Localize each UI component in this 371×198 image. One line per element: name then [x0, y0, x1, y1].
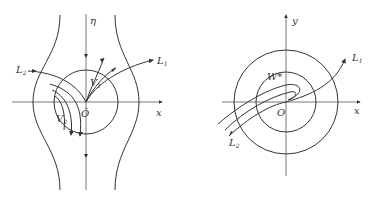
L1-label: L1	[156, 55, 167, 67]
arrow-down-icon	[84, 54, 88, 58]
origin-label: Õ	[81, 108, 89, 119]
origin-label: O	[277, 107, 285, 118]
y-axis-label: y	[291, 15, 298, 26]
diagram-canvas: η x Õ L2 L1 V1 V2 y x O W* L1 L2	[0, 0, 371, 198]
L2-plus-label: L2	[228, 137, 240, 149]
right-boundary-curve	[115, 15, 139, 190]
V2-label: V2	[56, 113, 67, 125]
W-star-label: W*	[267, 71, 282, 82]
x-axis-label: x	[354, 105, 360, 116]
eta-axis-label: η	[90, 15, 96, 26]
arrow-down-icon	[84, 154, 88, 158]
arrow-right-icon	[32, 69, 37, 73]
L1-plus-label: L1	[351, 52, 362, 64]
L2-label: L2	[15, 64, 27, 76]
left-boundary-curve	[33, 15, 60, 190]
left-phase-portrait: η x Õ L2 L1 V1 V2	[12, 14, 167, 190]
right-phase-portrait: y x O W* L1 L2	[218, 15, 362, 176]
x-axis-label: x	[156, 107, 162, 118]
V1-label: V1	[90, 77, 101, 89]
